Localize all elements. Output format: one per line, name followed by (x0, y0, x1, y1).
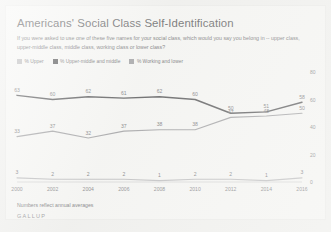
data-point-label: 60 (192, 91, 198, 97)
chart-screenshot: Americans' Social Class Self-Identificat… (0, 0, 331, 232)
data-point-label: 60 (50, 91, 56, 97)
data-point-label: 62 (85, 88, 91, 94)
x-axis-tick: 2010 (189, 186, 200, 192)
data-point-label: 3 (301, 169, 304, 175)
chart-svg: 6360626162605051583337323738384748503222… (17, 72, 302, 182)
data-point-label: 32 (85, 130, 91, 136)
data-point-label: 48 (264, 108, 270, 114)
y-axis-tick: 60 (310, 97, 316, 103)
chart-title: Americans' Social Class Self-Identificat… (17, 17, 234, 29)
x-axis-tick: 2012 (225, 186, 236, 192)
data-point-label: 1 (158, 172, 161, 178)
data-point-label: 2 (122, 171, 125, 177)
data-point-label: 50 (299, 105, 305, 111)
legend-swatch-icon (53, 59, 58, 64)
legend-label: % Upper (25, 59, 44, 64)
data-point-label: 37 (50, 123, 56, 129)
x-axis-tick: 2016 (296, 186, 307, 192)
data-point-label: 47 (228, 109, 234, 115)
legend-item-upper-middle-and-middle[interactable]: % Upper-middle and middle (53, 59, 121, 64)
legend-swatch-icon (17, 59, 22, 64)
data-point-label: 2 (194, 171, 197, 177)
data-point-label: 63 (14, 87, 20, 93)
x-axis-tick: 2014 (261, 186, 272, 192)
legend-label: % Working and lower (137, 59, 183, 64)
data-point-label: 61 (121, 90, 127, 96)
legend-item-upper[interactable]: % Upper (17, 59, 44, 64)
chart-footnote: Numbers reflect annual averages (17, 202, 93, 208)
data-point-label: 2 (51, 171, 54, 177)
legend-label: % Upper-middle and middle (60, 59, 120, 64)
chart-card: Americans' Social Class Self-Identificat… (6, 6, 325, 219)
data-point-label: 33 (14, 128, 20, 134)
data-point-label: 2 (229, 171, 232, 177)
y-axis: 020406080 (306, 68, 324, 186)
series-line (17, 95, 302, 113)
series-line (17, 178, 302, 181)
x-axis-tick: 2006 (118, 186, 129, 192)
data-point-label: 1 (265, 172, 268, 178)
legend-item-working-and-lower[interactable]: % Working and lower (129, 59, 183, 64)
data-point-label: 37 (121, 123, 127, 129)
legend-swatch-icon (129, 59, 134, 64)
y-axis-tick: 0 (310, 179, 313, 185)
x-axis-tick: 2002 (47, 186, 58, 192)
data-point-label: 3 (16, 169, 19, 175)
y-axis-tick: 20 (310, 152, 316, 158)
x-axis-tick: 2004 (83, 186, 94, 192)
data-point-label: 62 (157, 88, 163, 94)
chart-legend: % Upper % Upper-middle and middle % Work… (17, 59, 183, 64)
data-point-label: 2 (87, 171, 90, 177)
chart-plot-area: 6360626162605051583337323738384748503222… (17, 72, 302, 182)
y-axis-tick: 80 (310, 69, 316, 75)
x-axis: 200020022004200620082010201220142016 (17, 186, 302, 196)
data-point-label: 38 (192, 121, 198, 127)
data-point-label: 38 (157, 121, 163, 127)
x-axis-tick: 2000 (11, 186, 22, 192)
chart-source-logo: GALLUP (17, 213, 46, 219)
data-point-label: 58 (299, 94, 305, 100)
chart-subtitle: If you were asked to use one of these fi… (17, 34, 307, 51)
x-axis-tick: 2008 (154, 186, 165, 192)
y-axis-tick: 40 (310, 124, 316, 130)
